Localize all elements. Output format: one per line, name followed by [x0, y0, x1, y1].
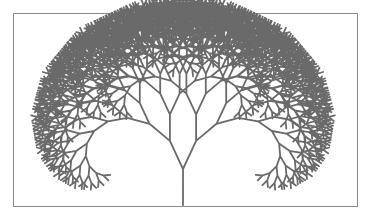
fractal-tree: [0, 0, 366, 217]
branch-path: [31, 0, 335, 205]
tree-branches: [31, 0, 335, 205]
